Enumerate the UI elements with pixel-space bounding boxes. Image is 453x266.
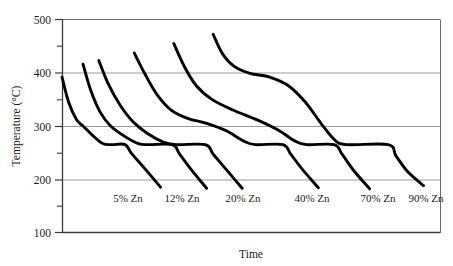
- series-label-12-zn: 12% Zn: [164, 192, 200, 204]
- series-label-70-zn: 70% Zn: [360, 192, 396, 204]
- series-label-90-zn: 90% Zn: [408, 192, 444, 204]
- series-label-20-zn: 20% Zn: [225, 192, 261, 204]
- ytick-label-300: 300: [34, 121, 52, 133]
- chart-background: [0, 0, 453, 266]
- ytick-label-200: 200: [34, 174, 52, 186]
- ytick-label-100: 100: [34, 227, 52, 239]
- ytick-label-500: 500: [34, 14, 52, 26]
- ytick-label-400: 400: [34, 67, 52, 79]
- series-label-40-zn: 40% Zn: [294, 192, 330, 204]
- x-axis-title: Time: [239, 248, 263, 260]
- cooling-curve-chart: 500 400 300 200 100 Temperature (°C) Tim…: [0, 0, 453, 266]
- y-axis-title: Temperature (°C): [10, 85, 23, 166]
- series-label-5-zn: 5% Zn: [113, 192, 143, 204]
- chart-svg: 500 400 300 200 100 Temperature (°C) Tim…: [0, 0, 453, 266]
